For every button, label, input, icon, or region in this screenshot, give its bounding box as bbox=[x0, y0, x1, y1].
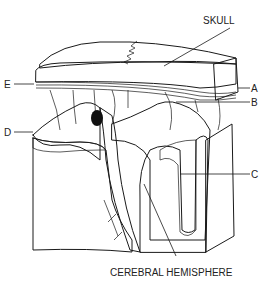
brain-meninges-diagram: SKULL E A B D C CEREBRAL HEMISPHERE bbox=[0, 0, 270, 288]
label-cerebral-hemisphere: CEREBRAL HEMISPHERE bbox=[110, 267, 233, 278]
skull bbox=[36, 41, 238, 100]
label-a: A bbox=[251, 83, 258, 94]
brain-block bbox=[33, 102, 234, 252]
label-c: C bbox=[251, 169, 258, 180]
label-skull: SKULL bbox=[203, 15, 235, 26]
venous-sinus bbox=[91, 110, 103, 126]
label-b: B bbox=[251, 97, 258, 108]
label-d: D bbox=[4, 127, 11, 138]
label-e: E bbox=[4, 79, 11, 90]
arachnoid-trabeculae bbox=[50, 90, 220, 130]
